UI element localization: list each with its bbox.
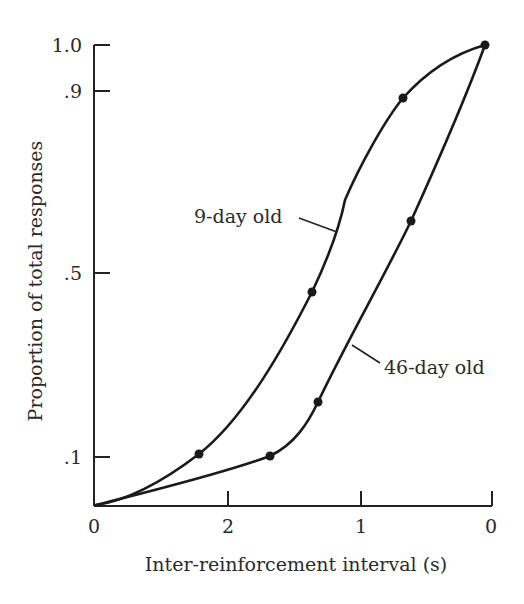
leader-line-9-day-old (299, 218, 337, 232)
y-tick-label-0.5: .5 (64, 262, 82, 284)
x-axis-title: Inter-reinforcement interval (s) (145, 553, 447, 575)
series-46-day-old-line (96, 45, 485, 505)
y-tick-label-0.9: .9 (64, 80, 82, 102)
series-9-day-old-line (96, 45, 485, 505)
chart: 1.0 .9 .5 .1 0 2 1 0 Inter-reinforcement… (0, 0, 524, 604)
series-9-day-old-point (195, 450, 204, 459)
series-9-day-old-point (308, 288, 317, 297)
x-tick-label-0-left: 0 (88, 515, 100, 537)
x-tick-label-1: 1 (355, 515, 367, 537)
series-label-46-day-old: 46-day old (384, 356, 485, 378)
x-tick-label-2: 2 (222, 515, 234, 537)
y-tick-label-1.0: 1.0 (52, 34, 82, 56)
series-46-day-old-point (314, 398, 323, 407)
series-label-9-day-old: 9-day old (194, 205, 282, 227)
series-shared-endpoint (481, 41, 490, 50)
leader-line-46-day-old (352, 345, 380, 363)
series-9-day-old-point (399, 94, 408, 103)
x-tick-label-0-right: 0 (485, 515, 497, 537)
series-46-day-old-point (407, 217, 416, 226)
y-tick-label-0.1: .1 (64, 446, 82, 468)
series-46-day-old-point (266, 452, 275, 461)
y-axis-title: Proportion of total responses (24, 141, 46, 422)
